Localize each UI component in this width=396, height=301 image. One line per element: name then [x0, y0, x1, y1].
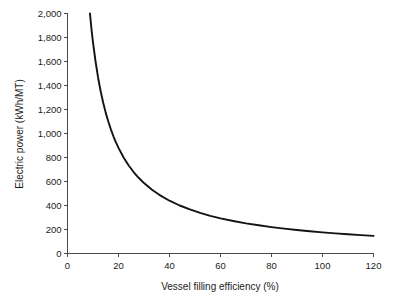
y-tick-label: 1,000 — [38, 128, 62, 139]
x-axis-ticks — [68, 254, 374, 258]
x-tick-label: 120 — [366, 260, 382, 271]
y-axis-title: Electric power (kWh/MT) — [14, 79, 25, 188]
data-series-line — [90, 14, 374, 236]
x-tick-label: 40 — [164, 260, 175, 271]
y-axis-ticks — [64, 14, 68, 254]
y-tick-label: 1,800 — [38, 32, 62, 43]
y-tick-label: 1,400 — [38, 80, 62, 91]
x-tick-label: 60 — [215, 260, 226, 271]
x-axis-tick-labels: 020406080100120 — [65, 260, 382, 271]
chart-plot: 02004006008001,0001,2001,4001,6001,8002,… — [0, 0, 396, 301]
x-tick-label: 0 — [65, 260, 70, 271]
y-tick-label: 600 — [46, 176, 62, 187]
y-tick-label: 800 — [46, 152, 62, 163]
y-tick-label: 1,600 — [38, 56, 62, 67]
y-axis-tick-labels: 02004006008001,0001,2001,4001,6001,8002,… — [38, 8, 62, 259]
x-tick-label: 100 — [315, 260, 331, 271]
chart-container: 02004006008001,0001,2001,4001,6001,8002,… — [0, 0, 396, 301]
x-axis-title: Vessel filling efficiency (%) — [161, 281, 279, 292]
x-tick-label: 20 — [113, 260, 124, 271]
y-tick-label: 400 — [46, 200, 62, 211]
x-tick-label: 80 — [266, 260, 277, 271]
y-tick-label: 0 — [56, 248, 61, 259]
y-tick-label: 2,000 — [38, 8, 62, 19]
y-tick-label: 200 — [46, 224, 62, 235]
y-tick-label: 1,200 — [38, 104, 62, 115]
